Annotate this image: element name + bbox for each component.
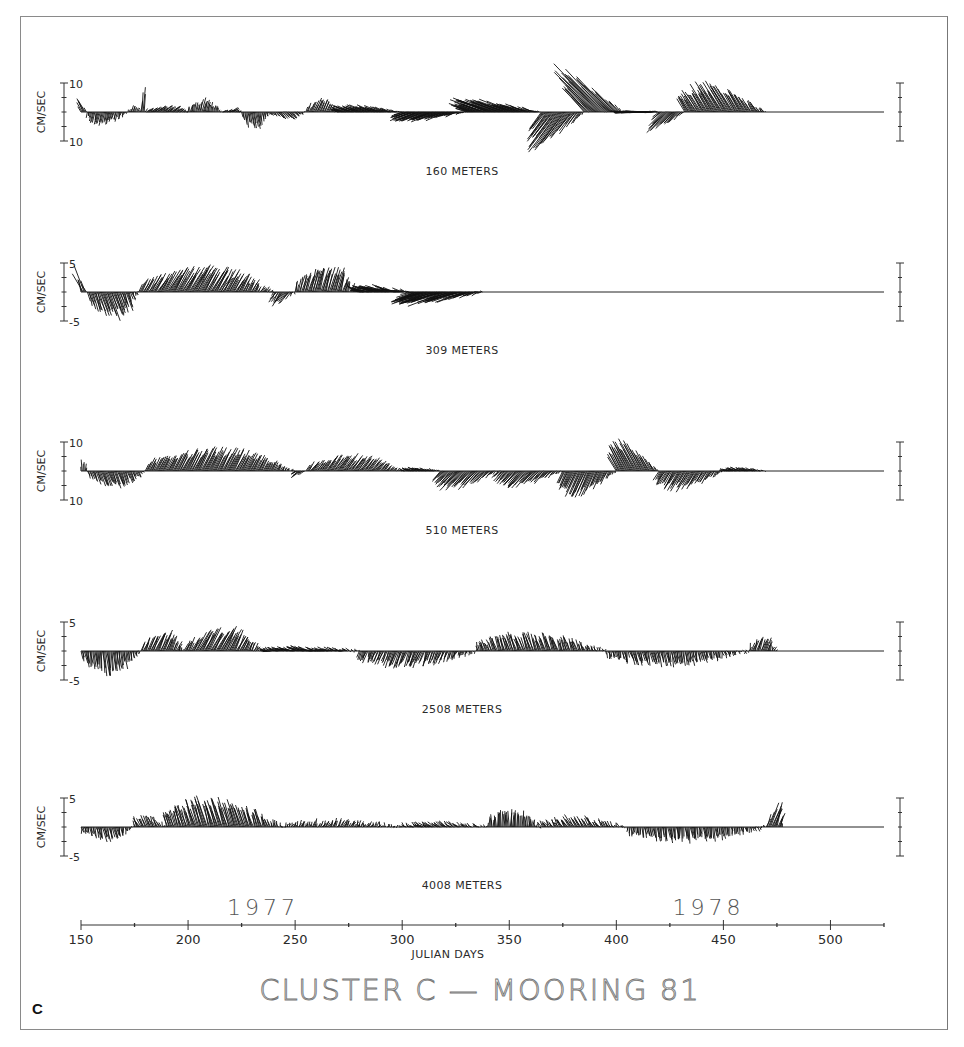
x-tick-label: 400 [604,932,629,947]
y-max-label: 5 [69,793,76,806]
left-scale-bar [60,83,68,141]
y-unit-label: CM/SEC [35,805,48,848]
right-scale-bar [896,442,904,500]
mooring-stick-plot: 1010CM/SEC160 METERS5-5CM/SEC309 METERS1… [0,0,964,1047]
year-label-1977: 1977 [227,895,299,920]
y-unit-label: CM/SEC [35,449,48,492]
y-min-label: 10 [69,495,83,508]
panel-letter: C [32,1000,43,1017]
depth-panel-4008: 5-5CM/SEC4008 METERS [35,793,904,892]
julian-days-axis: 15020025030035040045050019771978 [69,895,884,947]
x-axis-label: JULIAN DAYS [411,948,485,961]
y-max-label: 5 [69,617,76,630]
y-max-label: 5 [69,258,76,271]
x-tick-label: 450 [711,932,736,947]
depth-label: 160 METERS [425,165,498,178]
depth-label: 2508 METERS [422,703,503,716]
left-scale-bar [60,622,68,680]
y-unit-label: CM/SEC [35,90,48,133]
depth-panel-160: 1010CM/SEC160 METERS [35,64,904,178]
y-max-label: 10 [69,78,83,91]
current-vectors [72,265,482,321]
y-min-label: 10 [69,136,83,149]
depth-label: 309 METERS [425,344,498,357]
current-vectors [81,439,766,498]
depth-panel-309: 5-5CM/SEC309 METERS [35,258,904,357]
x-tick-label: 300 [390,932,415,947]
x-tick-label: 500 [818,932,843,947]
current-vectors [81,796,785,844]
y-min-label: -5 [69,851,80,864]
right-scale-bar [896,263,904,321]
depth-panel-2508: 5-5CM/SEC2508 METERS [35,617,904,716]
current-vectors [77,64,766,152]
left-scale-bar [60,798,68,856]
depth-label: 4008 METERS [422,879,503,892]
y-min-label: -5 [69,675,80,688]
x-tick-label: 200 [176,932,201,947]
x-tick-label: 150 [69,932,94,947]
depth-label: 510 METERS [425,524,498,537]
x-tick-label: 250 [283,932,308,947]
left-scale-bar [60,442,68,500]
right-scale-bar [896,83,904,141]
right-scale-bar [896,622,904,680]
y-max-label: 10 [69,437,83,450]
y-unit-label: CM/SEC [35,629,48,672]
y-unit-label: CM/SEC [35,270,48,313]
left-scale-bar [60,263,68,321]
figure-title: CLUSTER C — MOORING 81 [259,973,700,1007]
depth-panel-510: 1010CM/SEC510 METERS [35,437,904,537]
x-tick-label: 350 [497,932,522,947]
year-label-1978: 1978 [672,895,744,920]
y-min-label: -5 [69,316,80,329]
right-scale-bar [896,798,904,856]
